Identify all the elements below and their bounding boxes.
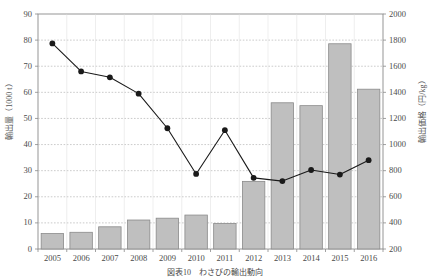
- left-tick-30: 30: [8, 166, 32, 175]
- bar-2013: [271, 103, 293, 249]
- line-point-2007: [107, 74, 113, 80]
- right-tick-600: 600: [389, 192, 417, 201]
- line-point-2006: [78, 69, 84, 75]
- left-tick-50: 50: [8, 114, 32, 123]
- right-tick-1000: 1000: [389, 140, 417, 149]
- line-point-2011: [222, 127, 228, 133]
- line-point-2014: [308, 167, 314, 173]
- right-tick-800: 800: [389, 166, 417, 175]
- line-point-2015: [337, 172, 343, 178]
- bar-2014: [300, 106, 322, 249]
- line-point-2009: [164, 125, 170, 131]
- bar-2006: [70, 232, 92, 249]
- bar-2010: [185, 215, 207, 249]
- left-tick-20: 20: [8, 192, 32, 201]
- figure-caption: 図表10 わさびの輸出動向: [0, 266, 430, 277]
- bar-2012: [242, 181, 264, 249]
- left-tick-40: 40: [8, 140, 32, 149]
- line-point-2013: [279, 178, 285, 184]
- line-point-2008: [136, 91, 142, 97]
- left-tick-60: 60: [8, 88, 32, 97]
- plot-area: [0, 0, 430, 279]
- bar-2011: [214, 223, 236, 249]
- bar-2005: [41, 234, 63, 249]
- bar-2015: [329, 44, 351, 249]
- line-point-2005: [49, 40, 55, 46]
- right-tick-2000: 2000: [389, 10, 417, 19]
- right-tick-1600: 1600: [389, 62, 417, 71]
- right-tick-1800: 1800: [389, 36, 417, 45]
- line-point-2010: [193, 171, 199, 177]
- right-tick-400: 400: [389, 218, 417, 227]
- left-tick-90: 90: [8, 10, 32, 19]
- bar-2009: [156, 218, 178, 249]
- left-tick-0: 0: [8, 245, 32, 254]
- right-tick-1200: 1200: [389, 114, 417, 123]
- left-tick-70: 70: [8, 62, 32, 71]
- right-tick-1400: 1400: [389, 88, 417, 97]
- chart-figure: 輸出量（1000 t） 輸出価格（円/kg） 01020304050607080…: [0, 0, 430, 279]
- right-tick-200: 200: [389, 245, 417, 254]
- left-tick-80: 80: [8, 36, 32, 45]
- x-tick-2016: 2016: [352, 254, 386, 263]
- bar-2008: [127, 220, 149, 249]
- line-point-2016: [366, 157, 372, 163]
- bar-2016: [357, 89, 379, 249]
- bar-2007: [99, 227, 121, 249]
- line-point-2012: [251, 175, 257, 181]
- left-tick-10: 10: [8, 218, 32, 227]
